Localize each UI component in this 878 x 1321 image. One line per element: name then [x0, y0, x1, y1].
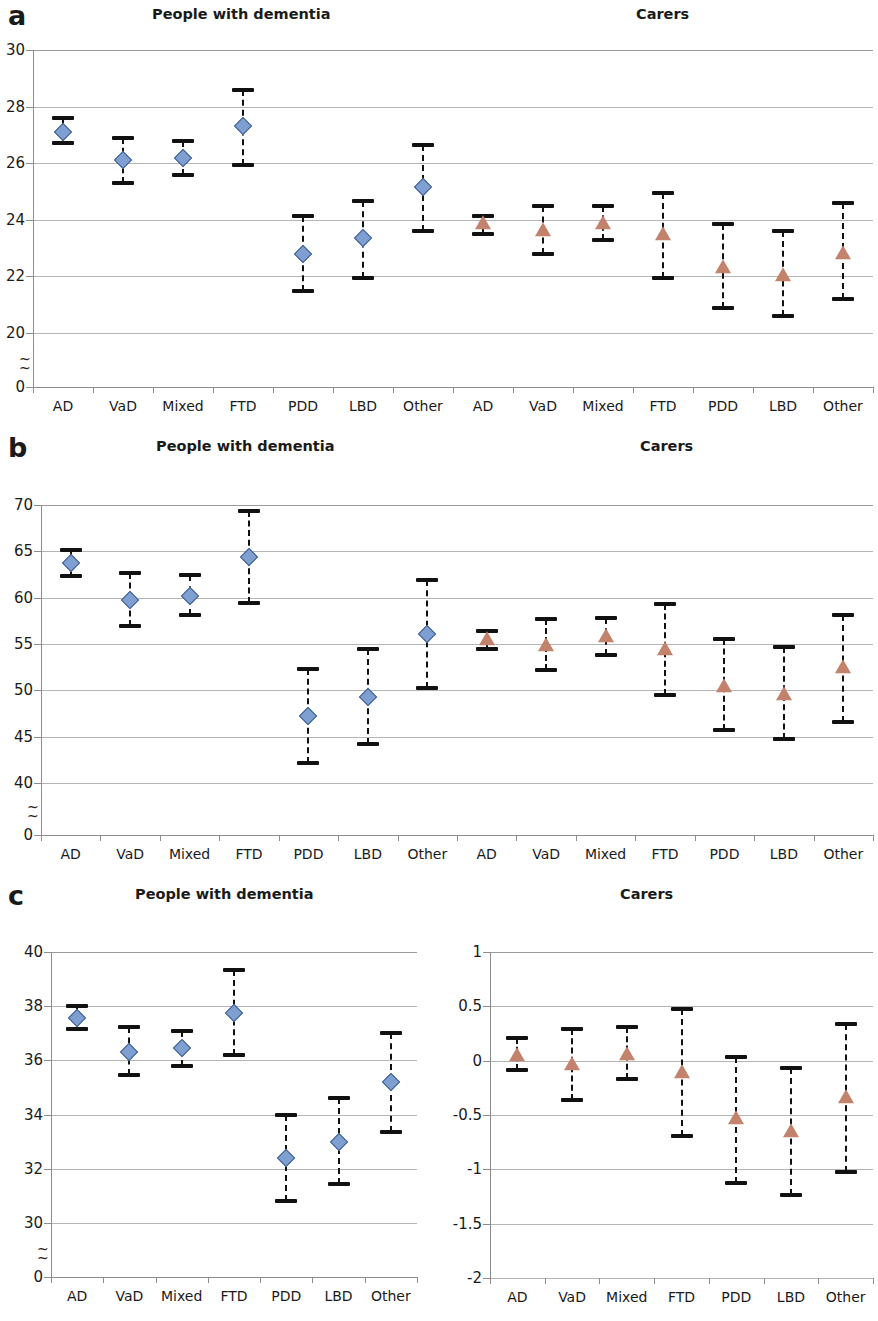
error-bar-cap-upper: [772, 229, 794, 233]
x-axis-tick-label: Other: [351, 1289, 431, 1303]
error-bar-cap-upper: [223, 968, 245, 972]
error-bar-cap-lower: [179, 613, 201, 617]
error-bar-cap-lower: [112, 181, 134, 185]
y-axis-tick-mark: [34, 505, 41, 506]
x-axis-tick-mark: [516, 835, 517, 841]
gridline: [33, 50, 873, 51]
y-axis-tick-label: 60: [0, 591, 33, 606]
panel-c-plot-left: 4038363432300~~ADVaDMixedFTDPDDLBDOther: [51, 952, 417, 1295]
error-bar-cap-upper: [412, 143, 434, 147]
triangle-marker: [715, 259, 731, 273]
gridline: [51, 1060, 417, 1061]
error-bar-cap-upper: [416, 578, 438, 582]
diamond-marker: [354, 229, 372, 247]
y-axis-tick-mark: [44, 1006, 51, 1007]
error-bar-cap-upper: [179, 573, 201, 577]
error-bar-cap-lower: [412, 229, 434, 233]
y-axis-line: [51, 952, 52, 1277]
y-axis-tick-mark: [483, 952, 490, 953]
gridline: [41, 644, 873, 645]
y-axis-tick-label: -1: [422, 1162, 482, 1177]
diamond-marker: [62, 554, 80, 572]
panel-b: b People with dementia Carers 7065605550…: [0, 432, 873, 880]
error-bar-cap-lower: [773, 737, 795, 741]
y-axis-tick-label: 38: [0, 999, 43, 1014]
diamond-marker: [414, 178, 432, 196]
error-bar-cap-lower: [52, 141, 74, 145]
x-axis-tick-label: Other: [806, 1290, 878, 1304]
x-axis-tick-mark: [490, 1278, 491, 1284]
error-bar-cap-upper: [780, 1066, 802, 1070]
y-axis-tick-mark: [44, 952, 51, 953]
y-axis-tick-label: 55: [0, 637, 33, 652]
diamond-marker: [299, 707, 317, 725]
y-axis-tick-mark: [483, 1278, 490, 1279]
x-axis-tick-mark: [338, 835, 339, 841]
gridline: [51, 1169, 417, 1170]
x-axis-tick-mark: [654, 1278, 655, 1284]
y-axis-tick-label: 40: [0, 776, 33, 791]
error-bar-cap-lower: [238, 601, 260, 605]
error-bar-cap-upper: [232, 88, 254, 92]
gridline: [33, 220, 873, 221]
y-axis-tick-label: 0: [0, 380, 25, 395]
error-bar-cap-upper: [773, 645, 795, 649]
y-axis-tick-label: 34: [0, 1108, 43, 1123]
panel-a-letter: a: [8, 2, 26, 29]
error-bar-cap-upper: [357, 647, 379, 651]
diamond-marker: [120, 1043, 138, 1061]
error-bar-cap-lower: [232, 163, 254, 167]
x-axis-tick-mark: [160, 835, 161, 841]
diamond-marker: [180, 587, 198, 605]
error-bar-cap-upper: [595, 616, 617, 620]
y-axis-tick-label: 20: [0, 326, 25, 341]
x-axis-tick-mark: [260, 1277, 261, 1283]
triangle-marker: [538, 637, 554, 651]
y-axis-tick-mark: [483, 1061, 490, 1062]
error-bar-cap-lower: [118, 1073, 140, 1077]
triangle-marker: [598, 628, 614, 642]
error-bar-cap-lower: [292, 289, 314, 293]
error-bar-cap-upper: [52, 116, 74, 120]
error-bar-cap-lower: [60, 574, 82, 578]
panel-c: c People with dementia Carers 4038363432…: [0, 880, 873, 1321]
y-axis-tick-mark: [34, 551, 41, 552]
y-axis-tick-mark: [26, 387, 33, 388]
error-bar-cap-lower: [725, 1181, 747, 1185]
error-bar-cap-lower: [595, 653, 617, 657]
panel-c-plot-right: 10.50-0.5-1-1.5-2ADVaDMixedFTDPDDLBDOthe…: [490, 952, 873, 1278]
y-axis-tick-mark: [44, 1060, 51, 1061]
axis-break-symbol: ~~: [27, 803, 39, 821]
panel-b-title-right: Carers: [640, 438, 693, 454]
y-axis-tick-label: 45: [0, 730, 33, 745]
x-axis-tick-mark: [100, 835, 101, 841]
error-bar-cap-upper: [532, 204, 554, 208]
diamond-marker: [277, 1149, 295, 1167]
x-axis-tick-mark: [754, 835, 755, 841]
y-axis-tick-mark: [34, 835, 41, 836]
y-axis-line: [41, 505, 42, 835]
triangle-marker: [479, 632, 495, 646]
diamond-marker: [173, 1039, 191, 1057]
error-bar-cap-lower: [654, 693, 676, 697]
y-axis-tick-label: 28: [0, 100, 25, 115]
x-axis-tick-mark: [219, 835, 220, 841]
y-axis-line: [33, 50, 34, 387]
y-axis-tick-mark: [26, 50, 33, 51]
diamond-marker: [68, 1009, 86, 1027]
error-bar-cap-upper: [119, 571, 141, 575]
x-axis-tick-mark: [273, 387, 274, 393]
panel-a-title-left: People with dementia: [152, 6, 331, 22]
y-axis-tick-mark: [34, 783, 41, 784]
triangle-marker: [619, 1047, 635, 1061]
error-bar-cap-lower: [380, 1130, 402, 1134]
diamond-marker: [418, 625, 436, 643]
error-bar-cap-lower: [472, 232, 494, 236]
panel-c-title-left: People with dementia: [135, 886, 314, 902]
axis-break-symbol: ~~: [19, 355, 31, 373]
y-axis-tick-label: 50: [0, 683, 33, 698]
error-bar-cap-upper: [171, 1029, 193, 1033]
triangle-marker: [783, 1124, 799, 1138]
error-bar-cap-lower: [328, 1182, 350, 1186]
y-axis-tick-mark: [26, 333, 33, 334]
